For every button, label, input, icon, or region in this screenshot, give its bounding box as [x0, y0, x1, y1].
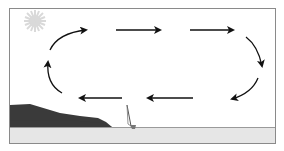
- sun-icon: [24, 10, 46, 32]
- sea-surface: [10, 127, 275, 143]
- sea-breeze-diagram: [0, 0, 284, 151]
